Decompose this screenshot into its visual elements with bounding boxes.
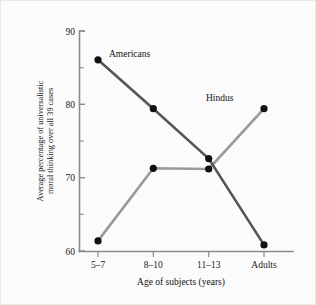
y-axis-title-line1: Average percentage of universalistic [36, 80, 45, 201]
axes [80, 31, 294, 252]
x-tick-label-adults: Adults [251, 260, 277, 270]
y-tick-labels: 90 80 70 60 [66, 27, 76, 257]
y-tick-label-70: 70 [66, 173, 76, 183]
data-point-americans-adults [260, 241, 267, 248]
data-point-hindus-adults [260, 105, 267, 112]
data-point-hindus-5-7 [94, 237, 101, 244]
data-point-americans-5-7 [94, 56, 101, 63]
x-ticks [98, 252, 264, 258]
x-tick-label-5-7: 5–7 [91, 260, 106, 270]
x-tick-label-11-13: 11–13 [197, 260, 221, 270]
data-point-hindus-8-10 [150, 165, 157, 172]
series-americans [94, 56, 267, 248]
chart-figure: 90 80 70 60 5–7 8–10 11–13 Adults Age of… [0, 0, 316, 305]
y-tick-label-60: 60 [66, 247, 76, 257]
series-hindus-line [98, 109, 264, 241]
y-axis-title: Average percentage of universalistic mor… [36, 80, 55, 201]
y-tick-label-90: 90 [66, 27, 76, 37]
data-point-americans-8-10 [150, 105, 157, 112]
line-chart: 90 80 70 60 5–7 8–10 11–13 Adults Age of… [1, 1, 316, 305]
data-point-hindus-11-13 [205, 165, 212, 172]
series-americans-line [98, 60, 264, 245]
series-label-hindus: Hindus [206, 93, 234, 103]
x-tick-label-8-10: 8–10 [144, 260, 163, 270]
series-hindus [94, 105, 267, 244]
x-axis-title: Age of subjects (years) [137, 277, 225, 288]
y-axis-title-line2: moral thinking over all 39 cases [46, 88, 55, 194]
data-point-americans-11-13 [205, 155, 212, 162]
y-tick-label-80: 80 [66, 100, 76, 110]
series-label-americans: Americans [109, 49, 150, 59]
x-tick-labels: 5–7 8–10 11–13 Adults [91, 260, 277, 270]
